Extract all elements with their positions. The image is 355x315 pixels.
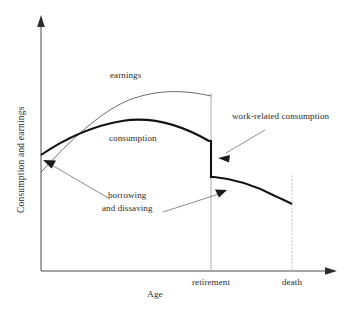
work-related-consumption-arrowhead [218,155,230,163]
x-axis-arrowhead [325,267,337,275]
x-marker-label-retirement: retirement [178,277,244,288]
diagram-canvas [0,0,355,315]
earnings-curve [41,92,211,172]
work-related-consumption-leader [226,130,265,153]
consumption-curve [41,120,292,204]
y-axis-label: Consumption and earnings [16,106,26,213]
borrowing-leader-left [50,164,110,199]
borrowing-leader-right-arrowhead [215,190,227,198]
y-axis-arrowhead [37,15,45,27]
borrowing-and-dissaving-line2: and dissaving [102,203,153,214]
x-axis-label: Age [133,289,177,300]
x-marker-label-death: death [266,277,318,288]
earnings-curve-label: earnings [110,70,141,81]
work-related-consumption-label: work-related consumption [232,111,329,122]
borrowing-and-dissaving-line1: borrowing [108,190,146,201]
life-cycle-diagram: Consumption and earnings Age earnings co… [0,0,355,315]
consumption-curve-label: consumption [109,133,157,144]
